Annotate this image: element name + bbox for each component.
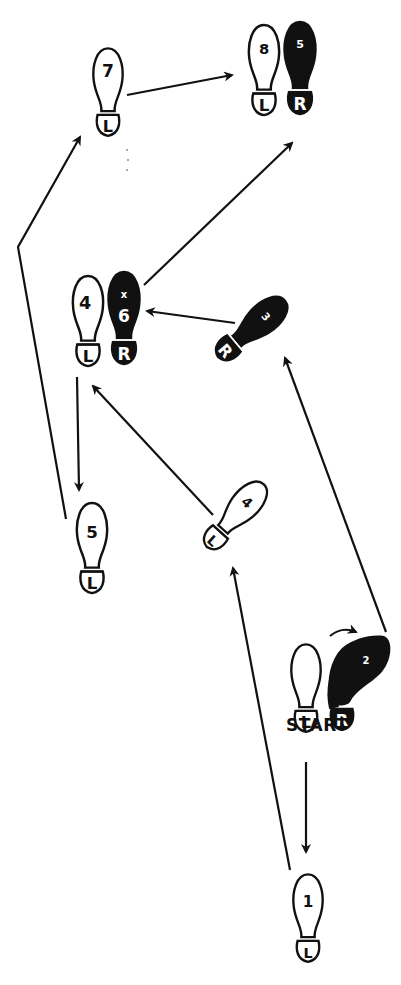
arrow-6-to-8 — [144, 143, 292, 285]
arrow-3-to-6 — [147, 311, 235, 323]
svg-text:R: R — [293, 94, 306, 114]
svg-text:L: L — [303, 945, 312, 961]
svg-text:6: 6 — [118, 306, 130, 326]
arrow-5-to-7 — [18, 137, 80, 519]
svg-text:L: L — [103, 117, 113, 136]
svg-text:1: 1 — [303, 893, 314, 911]
footprint-step-5: 5 L — [77, 503, 107, 593]
svg-text:x: x — [121, 289, 128, 300]
svg-text:8: 8 — [259, 40, 269, 57]
arrow-4-to-5 — [77, 377, 79, 490]
arrow-4-to-4 — [93, 386, 213, 515]
dance-step-diagram: 7 L 8 L 5 R 4 L x 6 R 3 R 5 L 4 L — [0, 0, 401, 985]
svg-text:5: 5 — [296, 38, 304, 51]
footprint-step-7: 7 L — [93, 48, 122, 136]
arrow-2-to-3 — [285, 358, 386, 632]
pivot-arrow — [330, 630, 356, 636]
footprint-step-8-right: 5 R — [285, 22, 316, 114]
footprint-step-4-center: 4 L — [196, 475, 274, 557]
footprint-step-1: 1 L — [293, 874, 322, 961]
svg-text:2: 2 — [363, 655, 370, 666]
footprint-step-8-left: 8 L — [249, 25, 279, 115]
start-label: START — [286, 715, 386, 735]
arrow-1-to-4 — [233, 568, 290, 870]
svg-text:L: L — [259, 96, 270, 115]
svg-text:R: R — [117, 344, 130, 364]
footprint-step-3: 3 R — [208, 289, 294, 368]
svg-text:4: 4 — [79, 293, 91, 313]
arrows — [18, 75, 386, 870]
svg-text:L: L — [83, 347, 94, 366]
footprint-step-6-right: x 6 R — [109, 272, 140, 364]
scan-specks — [126, 149, 129, 171]
svg-text:7: 7 — [102, 61, 114, 81]
footprint-step-4-left: 4 L — [73, 276, 103, 366]
svg-text:5: 5 — [86, 523, 98, 542]
arrow-7-to-8 — [127, 75, 232, 95]
svg-text:L: L — [87, 574, 98, 593]
